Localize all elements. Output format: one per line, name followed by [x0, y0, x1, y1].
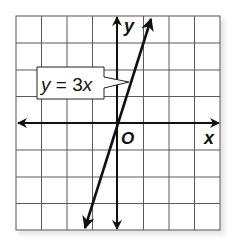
graph-svg: y = 3x y x O — [0, 0, 235, 247]
origin-label: O — [121, 129, 134, 148]
equation-label: y = 3x — [39, 74, 94, 95]
coordinate-graph: y = 3x y x O — [0, 0, 235, 247]
x-axis-label: x — [203, 128, 215, 148]
y-axis-label: y — [123, 16, 135, 36]
